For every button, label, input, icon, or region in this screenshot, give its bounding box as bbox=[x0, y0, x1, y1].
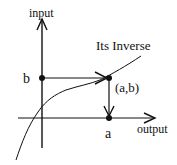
point-ab-label: (a,b) bbox=[115, 80, 139, 95]
curve-label: Its Inverse bbox=[96, 38, 151, 53]
point-b-label: b bbox=[23, 71, 30, 86]
output-axis-label: output bbox=[137, 122, 168, 136]
point-a bbox=[106, 115, 112, 121]
input-axis-label: input bbox=[29, 6, 54, 20]
inverse-function-diagram: input output Its Inverse b a (a,b) bbox=[0, 0, 177, 165]
point-b bbox=[39, 75, 45, 81]
point-ab bbox=[106, 75, 112, 81]
inverse-curve bbox=[16, 56, 141, 160]
point-a-label: a bbox=[105, 126, 112, 141]
